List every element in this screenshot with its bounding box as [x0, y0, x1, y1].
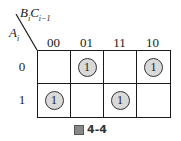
- row-label: 0: [17, 59, 27, 75]
- map-cell: [137, 84, 170, 117]
- map-cell: [71, 84, 104, 117]
- map-cell: 1: [38, 84, 71, 117]
- column-label: 10: [136, 35, 169, 51]
- column-label: 00: [37, 35, 70, 51]
- row-label: 1: [17, 92, 27, 108]
- map-cell: [38, 51, 71, 84]
- minterm-circle: 1: [111, 91, 130, 110]
- map-cell: 1: [104, 84, 137, 117]
- map-cell: [104, 51, 137, 84]
- minterm-circle: 1: [78, 58, 97, 77]
- minterm-circle: 1: [45, 91, 64, 110]
- column-variable-label: BiCi−1: [20, 5, 50, 23]
- map-cell: 1: [71, 51, 104, 84]
- minterm-circle: 1: [144, 58, 163, 77]
- karnaugh-map: 1 1 1 1: [37, 50, 171, 118]
- row-variable-label: Ai: [9, 25, 19, 43]
- column-label: 01: [70, 35, 103, 51]
- column-label: 11: [103, 35, 136, 51]
- figure-caption: 4-4: [74, 123, 107, 136]
- caption-text: 4-4: [87, 123, 107, 136]
- figure-glyph-icon: [74, 125, 84, 135]
- map-cell: 1: [137, 51, 170, 84]
